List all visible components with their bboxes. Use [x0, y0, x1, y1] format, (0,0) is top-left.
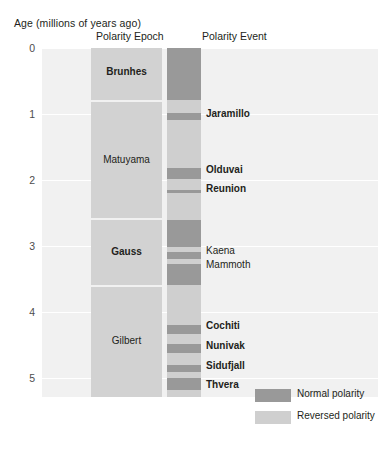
event-label-thvera: Thvera — [206, 379, 239, 390]
event-label-mammoth: Mammoth — [206, 259, 250, 270]
event-label-olduvai: Olduvai — [206, 164, 243, 175]
event-label-sidufjall: Sidufjall — [206, 360, 245, 371]
event-label-reunion: Reunion — [206, 183, 246, 194]
event-label-nunivak: Nunivak — [206, 340, 245, 351]
legend: Normal polarity Reversed polarity — [255, 387, 385, 431]
epoch-band-matuyama: Matuyama — [91, 102, 162, 218]
polarity-event-column — [167, 48, 201, 397]
epoch-band-brunhes: Brunhes — [91, 48, 162, 100]
event-label-jaramillo: Jaramillo — [206, 108, 250, 119]
polarity-band-nunivak — [167, 344, 201, 353]
epoch-label-brunhes: Brunhes — [91, 66, 162, 77]
y-tick-label-0: 0 — [5, 42, 35, 54]
polarity-band-gauss-lower — [167, 264, 201, 285]
polarity-band-cochiti — [167, 325, 201, 334]
polarity-band-thvera — [167, 378, 201, 390]
legend-row-normal-polarity: Normal polarity — [255, 387, 385, 405]
axis-title: Age (millions of years ago) — [14, 17, 141, 29]
legend-swatch-reversed-polarity — [255, 411, 291, 424]
polarity-band-olduvai — [167, 168, 201, 179]
y-tick-label-5: 5 — [5, 372, 35, 384]
y-tick-label-2: 2 — [5, 174, 35, 186]
polarity-band-reunion — [167, 190, 201, 193]
legend-label-reversed-polarity: Reversed polarity — [297, 410, 375, 421]
polarity-band-jaramillo — [167, 113, 201, 120]
polarity-band-brunhes — [167, 48, 201, 100]
column-header-polarity-event: Polarity Event — [202, 30, 267, 42]
epoch-band-gauss: Gauss — [91, 220, 162, 285]
y-tick-label-3: 3 — [5, 240, 35, 252]
y-tick-label-1: 1 — [5, 108, 35, 120]
polarity-band-gauss-middle — [167, 252, 201, 259]
epoch-band-gilbert: Gilbert — [91, 287, 162, 397]
legend-label-normal-polarity: Normal polarity — [297, 388, 364, 399]
y-tick-label-4: 4 — [5, 306, 35, 318]
event-label-kaena: Kaena — [206, 245, 235, 256]
polarity-timescale-figure: Age (millions of years ago) Polarity Epo… — [0, 0, 388, 459]
legend-row-reversed-polarity: Reversed polarity — [255, 409, 385, 427]
polarity-band-gauss-upper — [167, 220, 201, 247]
epoch-label-gilbert: Gilbert — [91, 335, 162, 346]
event-label-cochiti: Cochiti — [206, 320, 240, 331]
legend-swatch-normal-polarity — [255, 389, 291, 402]
epoch-label-gauss: Gauss — [91, 246, 162, 257]
polarity-band-sidufjall — [167, 365, 201, 372]
column-header-polarity-epoch: Polarity Epoch — [96, 30, 164, 42]
epoch-label-matuyama: Matuyama — [91, 154, 162, 165]
